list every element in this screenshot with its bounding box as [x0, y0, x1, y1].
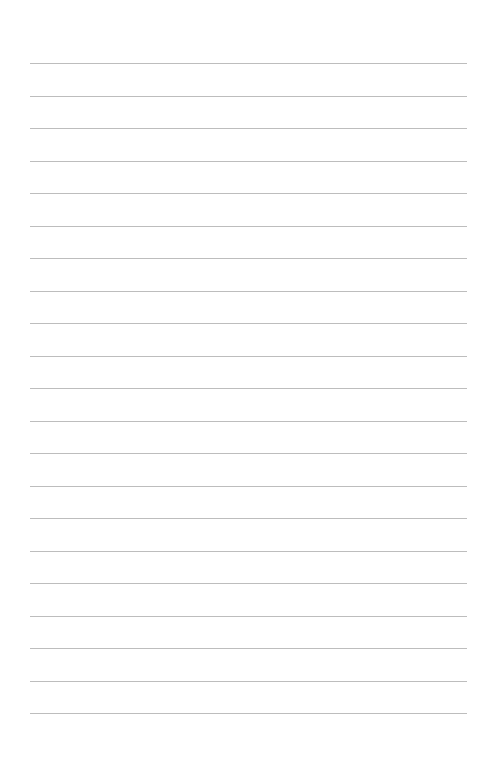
ruled-line: [30, 551, 467, 552]
ruled-line: [30, 258, 467, 259]
ruled-line: [30, 583, 467, 584]
ruled-page: [0, 0, 486, 769]
ruled-line: [30, 518, 467, 519]
ruled-line: [30, 226, 467, 227]
ruled-line: [30, 421, 467, 422]
ruled-line: [30, 648, 467, 649]
ruled-line: [30, 96, 467, 97]
ruled-line: [30, 291, 467, 292]
ruled-line: [30, 616, 467, 617]
ruled-line: [30, 323, 467, 324]
ruled-line: [30, 63, 467, 64]
ruled-line: [30, 161, 467, 162]
ruled-line: [30, 356, 467, 357]
ruled-line: [30, 193, 467, 194]
ruled-line: [30, 486, 467, 487]
ruled-line: [30, 388, 467, 389]
ruled-line: [30, 128, 467, 129]
ruled-line: [30, 681, 467, 682]
ruled-line: [30, 713, 467, 714]
ruled-line: [30, 453, 467, 454]
